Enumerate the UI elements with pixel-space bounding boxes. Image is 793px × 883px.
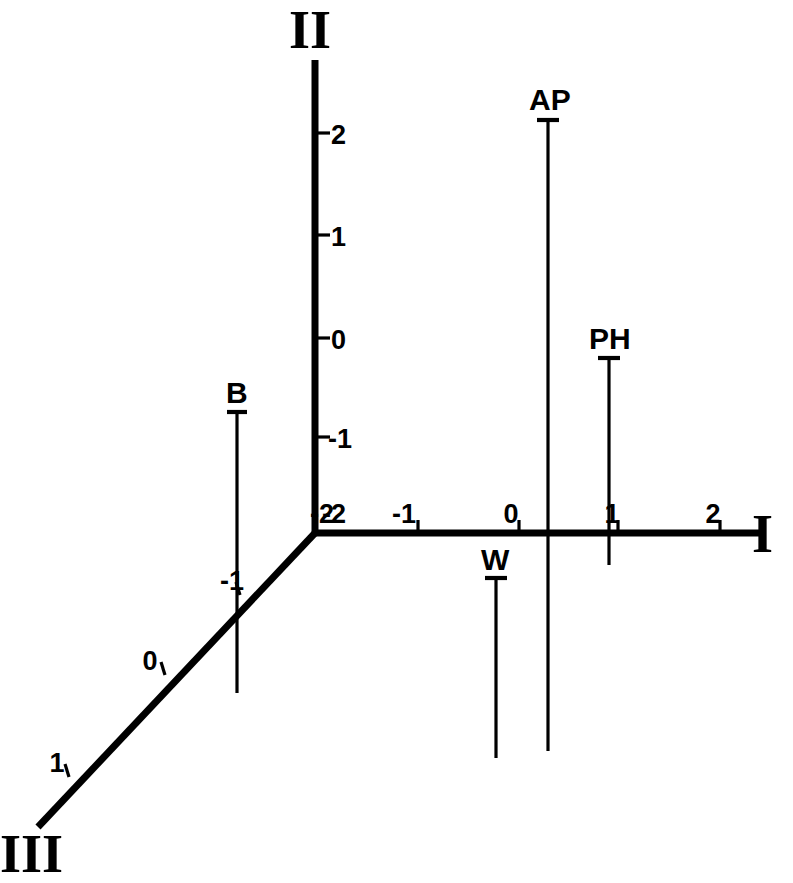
ternary-axes-diagram: -2-1012I210-1-2II-101IIIAPPHBW: [0, 0, 793, 883]
axis-iii-name: III: [0, 824, 63, 883]
axis-iii-ticklabel-1: 1: [49, 748, 64, 778]
axis-i-ticklabel-1: 1: [604, 499, 619, 529]
axis-ii-ticklabel-1: 1: [331, 222, 346, 252]
axis-i-ticklabel-0: 0: [503, 499, 518, 529]
axis-i-ticklabel--1: -1: [392, 499, 416, 529]
axis-ii-ticklabel-2: 2: [331, 120, 346, 150]
axes-group: [38, 60, 765, 827]
axis-iii-ticklabel-0: 0: [142, 646, 157, 676]
axis-ii-ticklabel-0: 0: [331, 325, 346, 355]
axis-ii-ticklabel--1: -1: [328, 424, 352, 454]
axis-ii-ticklabel--2: -2: [322, 499, 346, 529]
vector-b-label: B: [226, 376, 248, 409]
axis-iii-ticklabel--1: -1: [220, 566, 244, 596]
vector-ph-label: PH: [589, 322, 631, 355]
vector-ap-label: AP: [529, 83, 571, 116]
vectors-group: [227, 120, 620, 758]
axis-i-name: I: [752, 504, 773, 564]
axis-iii-tick-0: [161, 662, 165, 675]
axis-i-ticklabel-2: 2: [705, 499, 720, 529]
axis-iii-tick-1: [65, 764, 69, 777]
vector-w-label: W: [481, 543, 510, 576]
labels-group: -2-1012I210-1-2II-101IIIAPPHBW: [0, 0, 773, 883]
axis-ii-name: II: [289, 0, 331, 60]
axis-iii-line: [38, 533, 315, 827]
